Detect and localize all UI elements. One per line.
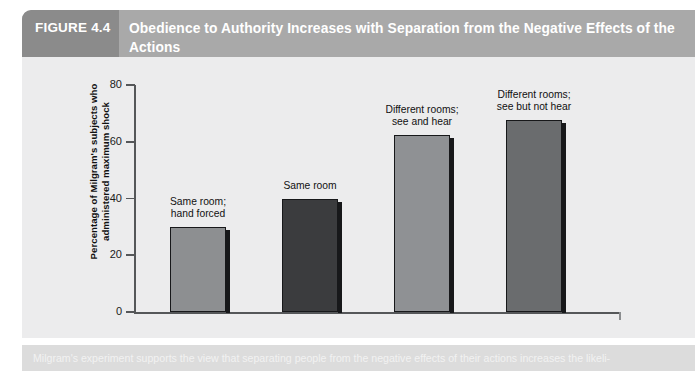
bar (282, 199, 338, 313)
bar-category-label: Different rooms; see but not hear (472, 89, 596, 113)
y-axis-tick-label-wrap: 40 (74, 193, 122, 204)
x-axis-line (134, 312, 620, 314)
y-axis-tick-label: 40 (80, 193, 122, 204)
bar-shadow (450, 138, 454, 313)
y-axis-tick-label-wrap: 20 (74, 249, 122, 260)
y-axis-tick (126, 84, 135, 86)
y-axis-tick-label: 0 (80, 306, 122, 317)
y-axis-tick-label: 60 (80, 136, 122, 147)
bar-shadow (562, 123, 566, 313)
bar-shadow (226, 230, 230, 313)
figure-caption-band: Milgram's experiment supports the view t… (22, 345, 695, 371)
figure-title: Obedience to Authority Increases with Se… (129, 21, 675, 55)
y-axis-tick-label-wrap: 80 (74, 79, 122, 90)
y-axis-title: Percentage of Milgram's subjects who adm… (88, 72, 111, 272)
bar-category-label: Different rooms; see and hear (360, 104, 484, 128)
figure-container: FIGURE 4.4 Obedience to Authority Increa… (0, 0, 695, 371)
y-axis-title-line-2: administered maximum shock (99, 102, 110, 241)
figure-number-badge: FIGURE 4.4 (22, 10, 119, 57)
y-axis-tick-label-wrap: 60 (74, 136, 122, 147)
figure-header: FIGURE 4.4 Obedience to Authority Increa… (22, 10, 695, 57)
y-axis-tick-label-wrap: 0 (74, 306, 122, 317)
figure-caption-text: Milgram's experiment supports the view t… (33, 352, 688, 365)
bar (170, 227, 226, 312)
y-axis-tick-label: 80 (80, 79, 122, 90)
bar (506, 120, 562, 312)
chart-panel: Percentage of Milgram's subjects who adm… (22, 57, 695, 338)
y-axis-title-line-1: Percentage of Milgram's subjects who (88, 84, 99, 260)
x-axis-end-tick (619, 312, 621, 320)
figure-number-label: FIGURE 4.4 (35, 20, 111, 35)
bar-category-label: Same room (248, 180, 372, 192)
y-axis-tick (126, 141, 135, 143)
y-axis-tick (126, 311, 135, 313)
bar-category-label: Same room; hand forced (136, 196, 260, 220)
plot-area: Percentage of Milgram's subjects who adm… (22, 57, 695, 338)
figure-title-container: Obedience to Authority Increases with Se… (119, 10, 695, 56)
y-axis-tick (126, 254, 135, 256)
bar (394, 135, 450, 312)
bar-shadow (338, 202, 342, 314)
y-axis-tick-label: 20 (80, 249, 122, 260)
y-axis-tick (126, 198, 135, 200)
